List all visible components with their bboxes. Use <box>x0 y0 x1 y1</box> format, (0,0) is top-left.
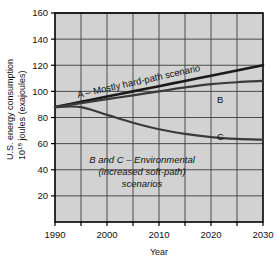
y-tick-label: 120 <box>32 60 48 71</box>
x-tick-label: 2030 <box>252 229 273 240</box>
x-tick-label: 2020 <box>200 229 221 240</box>
y-tick-label: 140 <box>32 34 48 45</box>
x-tick-label: 2000 <box>96 229 117 240</box>
x-tick-label: 1990 <box>44 229 65 240</box>
x-tick-label: 2010 <box>148 229 169 240</box>
energy-consumption-scenarios-chart: 20406080100120140160 1990200020102020203… <box>0 0 277 266</box>
y-tick-label: 160 <box>32 7 48 18</box>
y-tick-label: 100 <box>32 86 48 97</box>
y-tick-label: 20 <box>37 190 48 201</box>
y-tick-label: 60 <box>37 138 48 149</box>
series-b-label: B <box>217 94 223 105</box>
y-tick-label: 40 <box>37 164 48 175</box>
series-c-label: C <box>217 131 224 142</box>
y-tick-label: 80 <box>37 112 48 123</box>
y-axis-title-base: 10 <box>17 150 27 160</box>
y-axis-title-units: joules (exajoules) <box>17 71 27 144</box>
x-axis-title: Year <box>150 247 168 257</box>
y-axis-title-line1: U.S. energy consumption <box>5 59 15 160</box>
environmental-note-line2: (increased soft-path) <box>98 166 185 177</box>
environmental-note-line1: B and C – Environmental <box>89 154 196 165</box>
environmental-note-line3: scenarios <box>122 178 163 189</box>
